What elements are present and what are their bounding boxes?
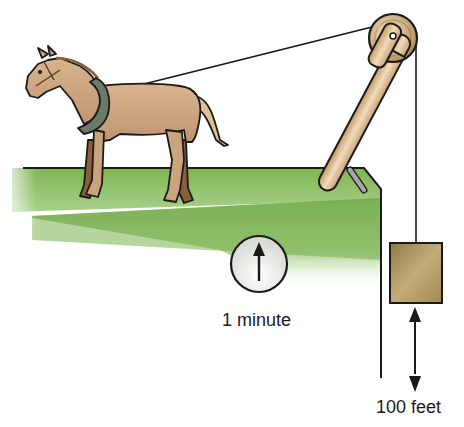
time-label: 1 minute <box>222 310 291 331</box>
weight-block <box>390 243 442 303</box>
clock-icon <box>231 236 287 292</box>
distance-label: 100 feet <box>376 397 441 418</box>
distance-arrow-icon <box>409 307 421 392</box>
diagram-canvas <box>0 0 464 427</box>
pulley <box>366 14 417 70</box>
